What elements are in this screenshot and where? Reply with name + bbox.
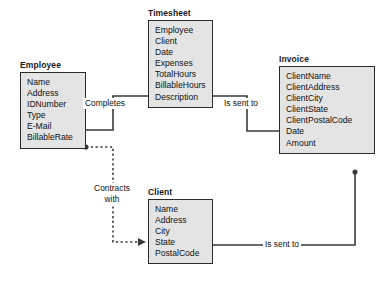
entity-invoice-title: Invoice (279, 54, 375, 65)
entity-client-title: Client (148, 187, 213, 198)
attribute: BillableRate (27, 132, 80, 143)
attribute: City (155, 226, 207, 237)
relationship-label-client-invoice: Is sent to (263, 239, 301, 250)
attribute: PostalCode (155, 248, 207, 259)
attribute: TotalHours (155, 69, 207, 80)
attribute: BillableHours (155, 80, 207, 91)
attribute: Address (27, 88, 80, 99)
attribute: Date (155, 47, 207, 58)
attribute: Address (155, 215, 207, 226)
attribute: IDNumber (27, 99, 80, 110)
entity-invoice-box: ClientName ClientAddress ClientCity Clie… (279, 66, 375, 154)
attribute: Expenses (155, 58, 207, 69)
attribute: Date (286, 126, 369, 137)
connector-client-invoice (213, 172, 355, 245)
attribute: ClientName (286, 71, 369, 82)
entity-client[interactable]: Client Name Address City State PostalCod… (148, 187, 213, 264)
attribute: Name (155, 204, 207, 215)
attribute: Amount (286, 138, 369, 149)
relationship-label-contracts-with: Contracts with (82, 183, 142, 204)
entity-timesheet[interactable]: Timesheet Employee Client Date Expenses … (148, 8, 213, 108)
attribute: Employee (155, 25, 207, 36)
attribute: State (155, 237, 207, 248)
entity-employee-title: Employee (20, 60, 86, 71)
attribute: Type (27, 110, 80, 121)
attribute: Client (155, 36, 207, 47)
entity-timesheet-box: Employee Client Date Expenses TotalHours… (148, 20, 213, 108)
entity-invoice[interactable]: Invoice ClientName ClientAddress ClientC… (279, 54, 375, 154)
entity-employee[interactable]: Employee Name Address IDNumber Type E-Ma… (20, 60, 86, 149)
attribute: Name (27, 77, 80, 88)
attribute: E-Mail (27, 121, 80, 132)
attribute: ClientPostalCode (286, 115, 369, 126)
relationship-label-line1: Contracts (84, 183, 140, 194)
attribute: Description (155, 92, 207, 103)
entity-employee-box: Name Address IDNumber Type E-Mail Billab… (20, 72, 86, 149)
relationship-label-completes: Completes (83, 98, 127, 109)
entity-client-box: Name Address City State PostalCode (148, 199, 213, 264)
relationship-label-line2: with (84, 194, 140, 205)
attribute: ClientCity (286, 93, 369, 104)
attribute: ClientAddress (286, 82, 369, 93)
attribute: ClientState (286, 104, 369, 115)
relationship-label-timesheet-invoice: Is sent to (222, 98, 260, 109)
erd-diagram: Employee Name Address IDNumber Type E-Ma… (0, 0, 379, 294)
entity-timesheet-title: Timesheet (148, 8, 213, 19)
